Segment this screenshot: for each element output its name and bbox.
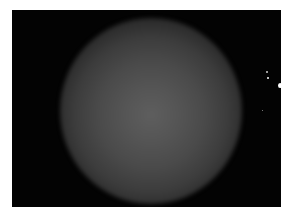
image-frame (12, 10, 281, 207)
bright-point (267, 77, 269, 79)
bright-point (262, 110, 263, 111)
bright-point (278, 83, 281, 88)
bright-point (266, 71, 268, 73)
glowing-sphere (60, 18, 242, 204)
